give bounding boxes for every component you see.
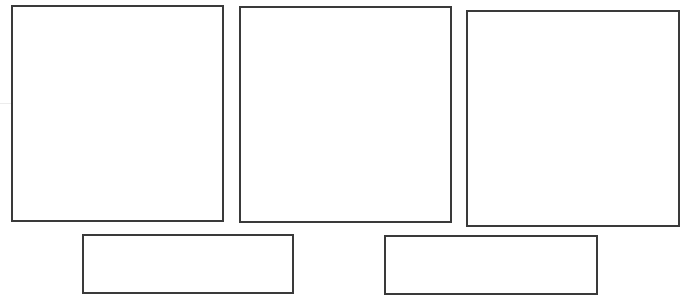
- frame-bottom-left: [82, 234, 294, 294]
- frame-top-right: [466, 10, 680, 227]
- frame-top-middle: [239, 6, 452, 223]
- frame-top-left: [11, 5, 224, 222]
- frame-bottom-right: [384, 235, 598, 295]
